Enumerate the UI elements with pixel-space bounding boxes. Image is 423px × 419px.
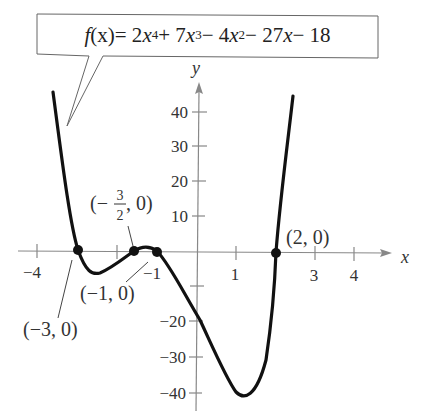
equation-label: f(x) = 2x4 + 7x3 − 4x2 − 27x − 18	[37, 14, 378, 56]
x-axis-label: x	[400, 247, 409, 267]
svg-text:3: 3	[117, 188, 124, 203]
svg-text:1: 1	[231, 265, 240, 284]
label-m1: (−1, 0)	[80, 282, 135, 305]
point-m3	[73, 245, 83, 255]
label-m32: (− 3 2 , 0)	[90, 188, 153, 223]
chart-canvas: 40 30 20 10 −20 −30 −40 −4 −1 1 3 4 y x …	[0, 0, 423, 419]
x-tick-labels: −4 −1 1 3 4	[23, 263, 359, 285]
svg-text:−20: −20	[159, 312, 186, 331]
svg-text:, 0): , 0)	[126, 192, 153, 215]
svg-text:−30: −30	[159, 348, 186, 367]
label-m3: (−3, 0)	[23, 318, 78, 341]
point-m1	[152, 247, 162, 257]
y-axis	[189, 90, 207, 411]
svg-text:−4: −4	[23, 263, 42, 282]
svg-text:30: 30	[171, 137, 188, 156]
x-axis	[18, 244, 388, 261]
svg-text:−40: −40	[159, 384, 186, 403]
label-p2: (2, 0)	[286, 226, 329, 249]
svg-text:3: 3	[310, 266, 319, 285]
y-axis-label: y	[190, 58, 200, 78]
svg-text:2: 2	[117, 208, 124, 223]
svg-text:20: 20	[171, 172, 188, 191]
svg-text:10: 10	[171, 207, 188, 226]
svg-text:(−: (−	[90, 192, 108, 215]
svg-text:−1: −1	[143, 264, 161, 283]
svg-text:4: 4	[350, 266, 359, 285]
y-tick-labels: 40 30 20 10 −20 −30 −40	[159, 103, 188, 403]
point-m32	[129, 246, 139, 256]
svg-text:40: 40	[171, 103, 188, 122]
point-2	[271, 248, 281, 258]
